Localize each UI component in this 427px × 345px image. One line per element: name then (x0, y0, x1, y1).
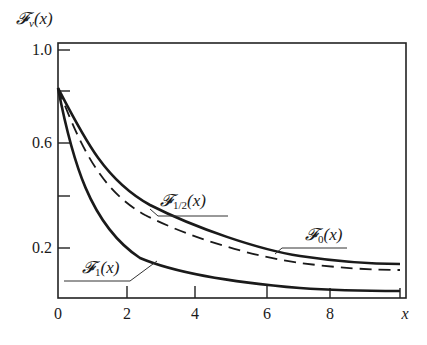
x-ticks (127, 286, 400, 298)
y-axis-script: 𝓕 (16, 8, 29, 28)
x-tick-2: 2 (117, 306, 137, 322)
f1-arg: (x) (101, 258, 120, 277)
x-axis-title: x (395, 306, 415, 322)
f-half-arg: (x) (187, 191, 206, 210)
y-ticks (58, 50, 70, 248)
label-f1: 𝓕1(x) (82, 259, 119, 278)
y-tick-0-2: 0.2 (12, 240, 52, 256)
y-tick-0-6: 0.6 (12, 135, 52, 151)
x-tick-4: 4 (185, 306, 205, 322)
x-tick-6: 6 (257, 306, 277, 322)
y-axis-arg: (x) (34, 9, 53, 28)
f-half-script: 𝓕 (160, 190, 173, 210)
curve-f0 (58, 88, 400, 264)
y-tick-1-0: 1.0 (12, 42, 52, 58)
f0-script: 𝓕 (305, 224, 318, 244)
f1-script: 𝓕 (82, 257, 95, 277)
y-axis-title: 𝓕ν(x) (16, 10, 53, 29)
label-f-half: 𝓕1/2(x) (160, 192, 206, 211)
x-tick-8: 8 (320, 306, 340, 322)
x-tick-0: 0 (48, 306, 68, 322)
curve-f-half (58, 88, 400, 270)
chart-plot-area (0, 0, 427, 345)
f0-arg: (x) (324, 225, 343, 244)
label-f0: 𝓕0(x) (305, 226, 342, 245)
f-half-sub: 1/2 (173, 199, 187, 211)
